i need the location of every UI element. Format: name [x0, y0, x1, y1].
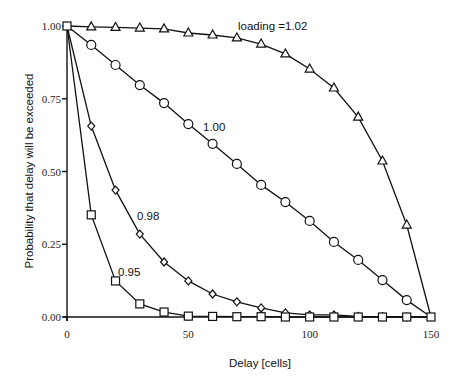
square-marker — [427, 313, 435, 321]
circle-marker — [354, 255, 363, 264]
square-marker — [354, 313, 362, 321]
x-tick-label: 150 — [423, 328, 440, 340]
circle-marker — [208, 139, 217, 148]
circle-marker — [160, 99, 169, 108]
chart: 0.000.250.500.751.00050100150Delay [cell… — [0, 0, 460, 392]
square-marker — [378, 313, 386, 321]
x-tick-label: 50 — [183, 328, 195, 340]
diamond-marker — [88, 122, 95, 130]
circle-marker — [305, 216, 314, 225]
square-marker — [281, 313, 289, 321]
circle-marker — [87, 40, 96, 49]
triangle-marker — [329, 83, 338, 91]
diamond-marker — [185, 277, 192, 285]
triangle-marker — [135, 23, 144, 31]
diamond-marker — [112, 186, 119, 194]
circle-marker — [232, 159, 241, 168]
triangle-marker — [305, 64, 314, 72]
y-tick-label: 0.00 — [42, 311, 62, 323]
diamond-marker — [233, 298, 240, 306]
circle-marker — [111, 60, 120, 69]
series-label: 1.00 — [203, 121, 225, 133]
series-label: loading =1.02 — [238, 20, 307, 32]
triangle-marker — [111, 22, 120, 30]
circle-marker — [184, 120, 193, 129]
square-marker — [160, 308, 168, 316]
triangle-marker — [378, 156, 387, 164]
square-marker — [112, 277, 120, 285]
labels-group: loading =1.021.000.980.95 — [118, 20, 307, 278]
y-tick-label: 0.75 — [42, 93, 62, 105]
circle-marker — [378, 276, 387, 285]
triangle-marker — [160, 24, 169, 32]
square-marker — [330, 313, 338, 321]
square-marker — [403, 313, 411, 321]
square-marker — [87, 211, 95, 219]
x-tick-label: 100 — [301, 328, 318, 340]
series-label: 0.98 — [137, 210, 159, 222]
square-marker — [136, 300, 144, 308]
diamond-marker — [209, 290, 216, 298]
diamond-marker — [258, 304, 265, 312]
square-marker — [233, 313, 241, 321]
square-marker — [184, 312, 192, 320]
triangle-marker — [402, 220, 411, 228]
square-marker — [257, 313, 265, 321]
x-axis-title: Delay [cells] — [229, 357, 291, 369]
square-marker — [306, 313, 314, 321]
x-tick-label: 0 — [64, 328, 70, 340]
y-tick-label: 0.50 — [42, 166, 62, 178]
square-marker — [209, 312, 217, 320]
triangle-marker — [87, 22, 96, 30]
square-marker — [63, 22, 71, 30]
triangle-marker — [208, 30, 217, 38]
series-label: 0.95 — [118, 266, 140, 278]
circle-marker — [402, 296, 411, 305]
y-tick-label: 1.00 — [42, 20, 62, 32]
y-tick-label: 0.25 — [42, 238, 62, 250]
circle-marker — [257, 180, 266, 189]
circle-marker — [281, 198, 290, 207]
circle-marker — [329, 237, 338, 246]
circle-marker — [135, 81, 144, 90]
y-axis-title: Probability that delay will be exceeded — [23, 74, 35, 269]
